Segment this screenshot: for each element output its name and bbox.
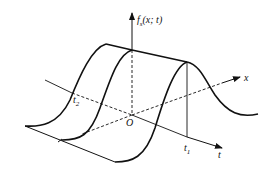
- t-axis-arrow: [187, 137, 222, 148]
- t2-line: [45, 80, 72, 93]
- x-axis-arrow: [222, 77, 240, 83]
- t2-label: t2: [73, 95, 79, 108]
- base-dashed: [82, 115, 132, 134]
- t1-label: t1: [184, 143, 190, 156]
- vertical-axis-label: fs(x; t): [137, 15, 162, 28]
- top-ridge: [106, 44, 187, 62]
- x-axis-label: x: [244, 73, 248, 83]
- x-axis-dashed: [132, 83, 222, 115]
- t-axis: [132, 115, 187, 137]
- t-axis-label: t: [218, 150, 221, 160]
- origin-label: O: [126, 118, 133, 128]
- curve-left: [25, 44, 106, 126]
- base-edge: [25, 126, 115, 162]
- curve-front: [115, 62, 187, 162]
- curve-right: [187, 62, 258, 115]
